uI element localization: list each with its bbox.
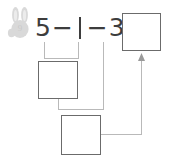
equation-minus-1: − bbox=[51, 13, 74, 43]
answer-box-result[interactable] bbox=[122, 13, 161, 51]
result-line-vertical bbox=[141, 55, 142, 135]
bracket-left-stem bbox=[44, 42, 45, 59]
equation-minus-2: − bbox=[86, 13, 109, 43]
result-line-horizontal bbox=[101, 134, 142, 135]
equation-cursor[interactable] bbox=[79, 17, 81, 39]
equation-five: 5 bbox=[35, 13, 51, 43]
answer-box-part-a[interactable] bbox=[38, 61, 78, 99]
bracket-base bbox=[44, 58, 79, 59]
drop-line-from-three bbox=[103, 42, 104, 110]
answer-box-part-b[interactable] bbox=[61, 115, 101, 155]
badge-number: 9 bbox=[6, 23, 34, 33]
worksheet-canvas: 9 5 − − 3 = bbox=[0, 0, 170, 167]
bracket-right-stem bbox=[78, 42, 79, 59]
elbow-horizontal-to-dropline bbox=[58, 109, 104, 110]
bunny-icon: 9 bbox=[6, 6, 34, 40]
